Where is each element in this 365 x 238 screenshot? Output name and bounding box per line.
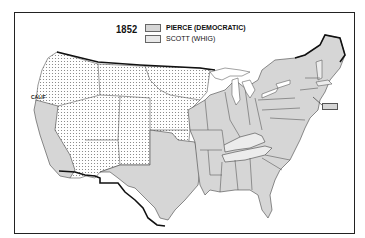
legend-label-scott: SCOTT (WHIG) [166, 35, 215, 42]
state-label-calif: CALIF [31, 94, 46, 100]
legend-swatch-pierce [145, 24, 161, 32]
legend-year: 1852 [116, 23, 137, 35]
legend-label-pierce: PIERCE (DEMOCRATIC) [166, 24, 246, 31]
legend-swatch-scott [145, 35, 161, 43]
rhode-island-inset-box [322, 103, 338, 110]
